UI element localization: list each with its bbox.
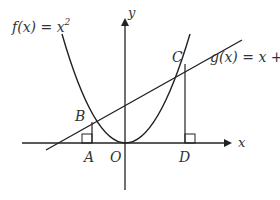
f-label: f(x) = x2 xyxy=(11,17,71,35)
right-angle-mark-d xyxy=(185,134,195,143)
point-label-d: D xyxy=(178,149,190,165)
g-label: g(x) = x + 2 xyxy=(210,49,280,65)
point-label-c: C xyxy=(172,49,183,65)
point-label-b: B xyxy=(74,108,85,124)
point-label-a: A xyxy=(82,149,94,165)
x-axis-label: x xyxy=(238,135,246,150)
origin-label: O xyxy=(110,149,122,165)
parabola-curve xyxy=(62,34,190,143)
function-graph-diagram: f(x) = x2 g(x) = x + 2 y x C B A O D xyxy=(0,0,280,200)
right-angle-mark-a xyxy=(82,134,92,143)
y-axis-label: y xyxy=(127,5,136,20)
